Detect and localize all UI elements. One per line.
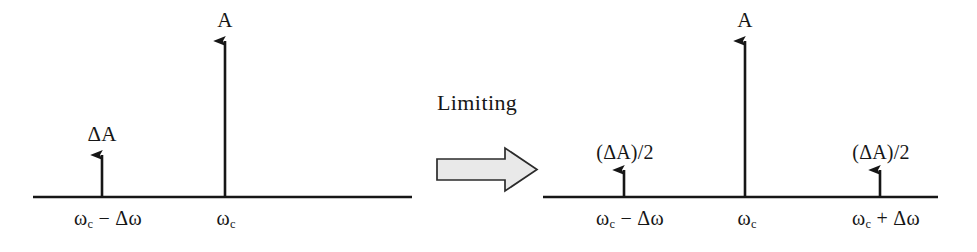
omega-subscript: c (230, 217, 236, 231)
after-limiting-group (543, 41, 938, 197)
spectrum-limiting-figure: ΔA A ωc − Δω ωc Limiting (ΔA)/2 A (ΔA)/2… (0, 0, 977, 252)
before-limiting-group (33, 41, 412, 197)
after-sideband-upper-amplitude-label: (ΔA)/2 (852, 142, 909, 162)
frequency-offset-text: + Δω (871, 207, 920, 229)
before-carrier-amplitude-label: A (217, 10, 232, 31)
omega-subscript: c (610, 217, 616, 231)
before-sideband-lower-amplitude-label: ΔA (87, 124, 116, 145)
omega-symbol: ω (74, 207, 87, 229)
omega-subscript: c (88, 217, 94, 231)
omega-subscript: c (866, 217, 872, 231)
after-carrier-amplitude-label: A (737, 10, 752, 31)
after-sideband-lower-amplitude-label: (ΔA)/2 (596, 142, 653, 162)
limiting-transition-label: Limiting (437, 92, 517, 114)
before-carrier-frequency-label: ωc (217, 208, 236, 228)
after-carrier-frequency-label: ωc (738, 208, 757, 228)
after-sideband-lower-frequency-label: ωc − Δω (596, 208, 664, 228)
omega-symbol: ω (738, 207, 751, 229)
figure-canvas (0, 0, 977, 252)
omega-symbol: ω (217, 207, 230, 229)
omega-symbol: ω (596, 207, 609, 229)
frequency-offset-text: − Δω (615, 207, 664, 229)
omega-symbol: ω (852, 207, 865, 229)
omega-subscript: c (751, 217, 757, 231)
before-sideband-lower-frequency-label: ωc − Δω (74, 208, 142, 228)
frequency-offset-text: − Δω (93, 207, 142, 229)
after-sideband-upper-frequency-label: ωc + Δω (852, 208, 920, 228)
limiting-block-arrow-icon (437, 148, 537, 191)
